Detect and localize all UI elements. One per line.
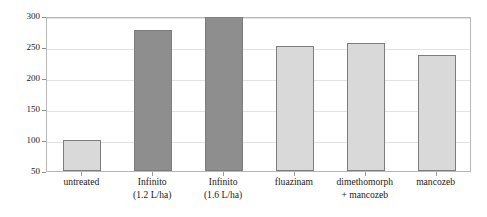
y-tick-mark: [42, 110, 46, 111]
y-tick-mark: [42, 79, 46, 80]
bar: [347, 43, 385, 171]
plot-area: [46, 17, 471, 172]
bar: [63, 140, 101, 171]
x-tick-label-line1: mancozeb: [416, 176, 455, 187]
y-tick-label: 50: [6, 166, 40, 176]
y-tick-label: 150: [6, 104, 40, 114]
y-tick-label: 250: [6, 42, 40, 52]
bar-chart-figure: Relative yield (%) 50100150200250300 unt…: [0, 0, 487, 217]
bar: [134, 30, 172, 171]
y-tick-label: 100: [6, 135, 40, 145]
y-tick-label: 200: [6, 73, 40, 83]
bar: [418, 55, 456, 171]
y-tick-mark: [42, 17, 46, 18]
bar: [276, 46, 314, 171]
y-tick-mark: [42, 48, 46, 49]
bar-series: [47, 18, 470, 171]
x-tick-label-line2: (1.6 L/ha): [163, 189, 283, 202]
x-tick-label: mancozeb: [376, 176, 487, 189]
x-tick-label-line2: + mancozeb: [305, 189, 425, 202]
y-tick-mark: [42, 141, 46, 142]
y-tick-label: 300: [6, 11, 40, 21]
y-tick-mark: [42, 172, 46, 173]
bar: [205, 17, 243, 171]
